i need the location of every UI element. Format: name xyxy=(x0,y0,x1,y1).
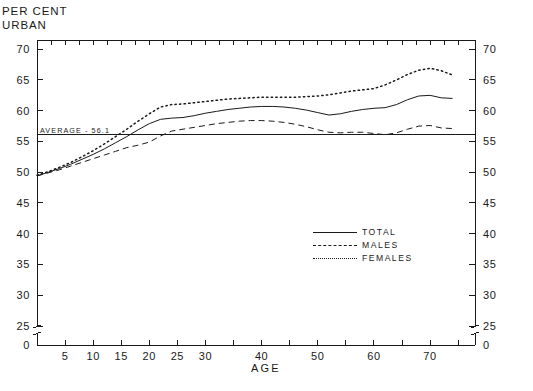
series-line-females xyxy=(37,68,453,175)
x-axis-label: AGE xyxy=(251,362,281,374)
y-tick-label-left-25: 25 xyxy=(2,320,30,332)
y-tick-label-right-45: 45 xyxy=(483,197,496,209)
y-tick-label-right-30: 30 xyxy=(483,289,496,301)
y-tick-label-left-70: 70 xyxy=(2,43,30,55)
chart-figure: PER CENTURBAN AVERAGE - 56.1 AGE TOTAL M… xyxy=(0,0,533,391)
y-tick-label-right-25: 25 xyxy=(483,320,496,332)
y-tick-label-right-0: 0 xyxy=(483,339,490,351)
y-tick-label-right-55: 55 xyxy=(483,135,496,147)
average-annotation: AVERAGE - 56.1 xyxy=(40,126,110,135)
x-tick-label-70: 70 xyxy=(423,350,436,362)
x-tick-label-25: 25 xyxy=(171,350,184,362)
y-tick-label-right-65: 65 xyxy=(483,74,496,86)
y-tick-label-left-45: 45 xyxy=(2,197,30,209)
y-tick-label-right-50: 50 xyxy=(483,166,496,178)
x-tick-label-30: 30 xyxy=(199,350,212,362)
y-tick-label-left-65: 65 xyxy=(2,74,30,86)
y-tick-label-left-40: 40 xyxy=(2,228,30,240)
legend-item-females: FEMALES xyxy=(313,252,413,265)
y-tick-label-right-60: 60 xyxy=(483,105,496,117)
legend-label-females: FEMALES xyxy=(362,252,413,265)
legend-label-males: MALES xyxy=(362,239,399,252)
x-tick-label-40: 40 xyxy=(255,350,268,362)
legend-line-dotted-icon xyxy=(313,254,357,263)
y-tick-label-right-70: 70 xyxy=(483,43,496,55)
plot-canvas xyxy=(0,0,533,391)
legend-line-dashed-icon xyxy=(313,241,357,250)
series-line-total xyxy=(37,95,453,176)
y-tick-label-left-35: 35 xyxy=(2,258,30,270)
legend-line-solid-icon xyxy=(313,228,357,237)
legend-label-total: TOTAL xyxy=(362,226,396,239)
x-tick-label-60: 60 xyxy=(367,350,380,362)
y-tick-label-left-60: 60 xyxy=(2,105,30,117)
x-tick-label-15: 15 xyxy=(115,350,128,362)
legend-item-total: TOTAL xyxy=(313,226,413,239)
y-tick-label-right-35: 35 xyxy=(483,258,496,270)
x-tick-label-50: 50 xyxy=(311,350,324,362)
y-tick-label-left-30: 30 xyxy=(2,289,30,301)
legend-item-males: MALES xyxy=(313,239,413,252)
chart-legend: TOTAL MALES FEMALES xyxy=(313,226,413,266)
y-tick-label-left-55: 55 xyxy=(2,135,30,147)
x-tick-label-20: 20 xyxy=(143,350,156,362)
y-tick-label-left-50: 50 xyxy=(2,166,30,178)
x-tick-label-5: 5 xyxy=(62,350,69,362)
y-tick-label-right-40: 40 xyxy=(483,228,496,240)
y-tick-label-left-0: 0 xyxy=(2,339,30,351)
x-tick-label-10: 10 xyxy=(86,350,99,362)
